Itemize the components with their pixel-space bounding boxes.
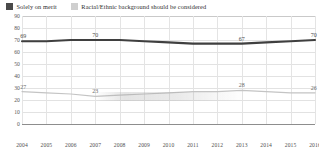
x-axis-tick-2010: 2010 xyxy=(163,142,175,148)
legend-item-racial-ethnic-background: Racial/Ethnic background should be consi… xyxy=(71,3,206,10)
y-axis-tick-50: 50 xyxy=(14,61,20,67)
series-paths xyxy=(22,16,315,124)
x-axis-tick-2004: 2004 xyxy=(16,142,28,148)
y-axis-tick-70: 70 xyxy=(14,37,20,43)
y-axis-tick-60: 60 xyxy=(14,49,20,55)
gridline-x-2016 xyxy=(315,16,316,124)
y-axis-tick-0: 0 xyxy=(17,121,20,127)
chart-legend: Solely on merit Racial/Ethnic background… xyxy=(6,3,206,10)
dark-square-icon xyxy=(6,3,13,10)
y-axis-tick-10: 10 xyxy=(14,109,20,115)
y-axis-tick-20: 20 xyxy=(14,97,20,103)
y-axis-tick-30: 30 xyxy=(14,85,20,91)
x-axis-tick-2012: 2012 xyxy=(212,142,224,148)
line-chart: Solely on merit Racial/Ethnic background… xyxy=(0,0,319,159)
series-line-solely-on-merit xyxy=(22,40,315,44)
x-axis-tick-2008: 2008 xyxy=(114,142,126,148)
x-axis-tick-2013: 2013 xyxy=(236,142,248,148)
gridline-y-0 xyxy=(22,124,315,125)
series-line-racial-ethnic-background xyxy=(22,90,315,96)
legend-item-solely-on-merit: Solely on merit xyxy=(6,3,57,10)
x-axis-tick-2015: 2015 xyxy=(285,142,297,148)
light-square-icon xyxy=(71,3,78,10)
x-axis: 2004200520062007200820092010201120122013… xyxy=(22,142,315,156)
y-axis-tick-40: 40 xyxy=(14,73,20,79)
y-axis-tick-80: 80 xyxy=(14,25,20,31)
x-axis-tick-2009: 2009 xyxy=(138,142,150,148)
x-axis-tick-2006: 2006 xyxy=(65,142,77,148)
x-axis-tick-2011: 2011 xyxy=(187,142,198,148)
legend-label-racial-ethnic-background: Racial/Ethnic background should be consi… xyxy=(81,3,206,10)
y-axis-tick-90: 90 xyxy=(14,13,20,19)
x-axis-tick-2016: 2016 xyxy=(309,142,319,148)
y-axis: 0102030405060708090 xyxy=(0,16,22,124)
x-axis-tick-2014: 2014 xyxy=(260,142,272,148)
x-axis-tick-2005: 2005 xyxy=(41,142,53,148)
legend-label-solely-on-merit: Solely on merit xyxy=(17,3,57,10)
x-axis-tick-2007: 2007 xyxy=(89,142,101,148)
plot-area: 0102030405060708090 6970677027232826 200… xyxy=(0,16,319,140)
